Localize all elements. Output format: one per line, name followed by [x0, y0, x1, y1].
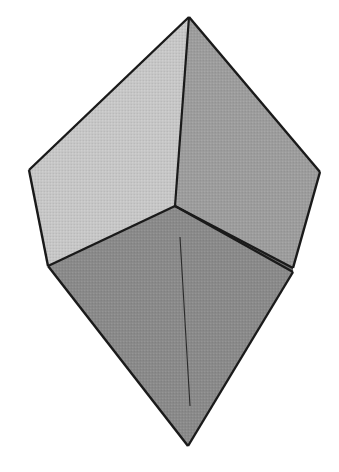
- rhombohedron-diagram: [0, 0, 339, 472]
- figure-root: [0, 0, 339, 472]
